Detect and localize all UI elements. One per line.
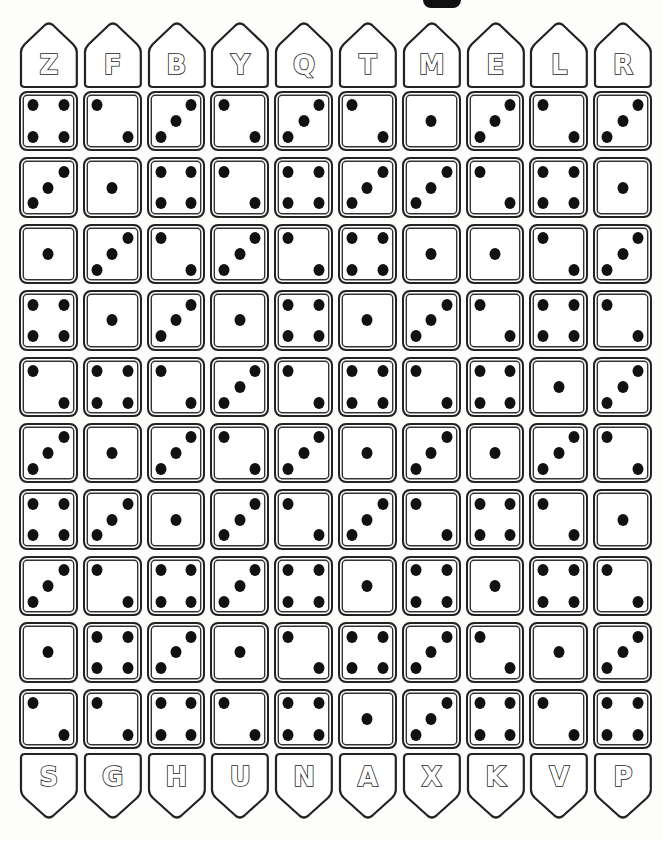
- pip-icon: [410, 564, 421, 576]
- pip-icon: [234, 248, 245, 260]
- die-7-3: [145, 486, 209, 552]
- pip-icon: [91, 631, 102, 643]
- die-2-2: [81, 154, 145, 220]
- pip-icon: [283, 299, 294, 311]
- die-face: [19, 91, 78, 151]
- die-5-2: [81, 354, 145, 420]
- top-letter-tab: Q: [272, 22, 336, 88]
- pip-icon: [441, 431, 452, 443]
- pip-icon: [170, 646, 181, 658]
- die-9-4: [208, 619, 272, 685]
- die-face: [593, 224, 652, 284]
- tab-letter: A: [336, 762, 400, 792]
- pip-icon: [155, 564, 166, 576]
- top-letter-tab: M: [400, 22, 464, 88]
- die-face: [19, 556, 78, 616]
- pip-icon: [632, 697, 643, 709]
- pip-icon: [283, 365, 294, 377]
- pip-icon: [347, 662, 358, 674]
- die-9-8: [464, 619, 528, 685]
- pip-icon: [219, 166, 230, 178]
- die-8-7: [400, 553, 464, 619]
- pip-icon: [441, 299, 452, 311]
- pip-icon: [122, 498, 133, 510]
- pip-icon: [602, 662, 613, 674]
- pip-icon: [347, 232, 358, 244]
- pip-icon: [426, 248, 437, 260]
- die-face: [529, 489, 588, 549]
- die-face: [402, 290, 461, 350]
- die-3-3: [145, 221, 209, 287]
- pip-icon: [362, 447, 373, 459]
- bottom-letter-tab: K: [464, 752, 528, 818]
- pip-icon: [186, 299, 197, 311]
- die-face: [83, 157, 142, 217]
- pip-icon: [441, 697, 452, 709]
- die-3-1: [17, 221, 81, 287]
- bottom-letter-tab: U: [208, 752, 272, 818]
- pip-icon: [219, 99, 230, 111]
- pip-icon: [155, 232, 166, 244]
- pip-icon: [234, 314, 245, 326]
- tab-letter: Y: [208, 50, 272, 80]
- pip-icon: [505, 729, 516, 741]
- top-letter-tab: R: [591, 22, 655, 88]
- pip-icon: [377, 662, 388, 674]
- die-3-4: [208, 221, 272, 287]
- die-7-8: [464, 486, 528, 552]
- pip-icon: [155, 197, 166, 209]
- pip-icon: [43, 248, 54, 260]
- pip-icon: [569, 166, 580, 178]
- die-7-10: [591, 486, 655, 552]
- pip-icon: [122, 631, 133, 643]
- pip-icon: [602, 729, 613, 741]
- die-3-7: [400, 221, 464, 287]
- pip-icon: [538, 99, 549, 111]
- pip-icon: [219, 264, 230, 276]
- tab-letter: B: [145, 50, 209, 80]
- pip-icon: [632, 232, 643, 244]
- pip-icon: [186, 166, 197, 178]
- pip-icon: [602, 697, 613, 709]
- pip-icon: [377, 264, 388, 276]
- die-face: [19, 423, 78, 483]
- pip-icon: [441, 529, 452, 541]
- pip-icon: [186, 631, 197, 643]
- die-face: [210, 290, 269, 350]
- die-6-2: [81, 420, 145, 486]
- die-face: [402, 357, 461, 417]
- pip-icon: [313, 697, 324, 709]
- die-2-3: [145, 154, 209, 220]
- top-letter-tab: B: [145, 22, 209, 88]
- pip-icon: [410, 662, 421, 674]
- pip-icon: [632, 330, 643, 342]
- die-face: [338, 689, 397, 749]
- pip-icon: [219, 596, 230, 608]
- die-face: [210, 489, 269, 549]
- pip-icon: [250, 463, 261, 475]
- bottom-letter-tab: X: [400, 752, 464, 818]
- pip-icon: [28, 463, 39, 475]
- die-face: [147, 290, 206, 350]
- pip-icon: [474, 631, 485, 643]
- pip-icon: [362, 514, 373, 526]
- pip-icon: [219, 397, 230, 409]
- pip-icon: [250, 729, 261, 741]
- die-8-1: [17, 553, 81, 619]
- die-10-8: [464, 686, 528, 752]
- pip-icon: [186, 729, 197, 741]
- die-8-9: [527, 553, 591, 619]
- tab-letter: P: [591, 762, 655, 792]
- pip-icon: [155, 463, 166, 475]
- pip-icon: [474, 131, 485, 143]
- die-6-6: [336, 420, 400, 486]
- pip-icon: [538, 596, 549, 608]
- die-face: [274, 622, 333, 682]
- die-face: [147, 224, 206, 284]
- die-face: [19, 157, 78, 217]
- pip-icon: [250, 131, 261, 143]
- pip-icon: [58, 397, 69, 409]
- die-10-1: [17, 686, 81, 752]
- tab-letter: M: [400, 50, 464, 80]
- die-4-10: [591, 287, 655, 353]
